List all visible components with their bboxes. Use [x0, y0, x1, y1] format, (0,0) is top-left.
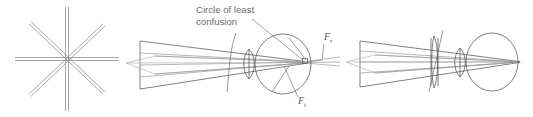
callout-leader-line: [252, 19, 303, 60]
focus-leader-lines: [284, 44, 324, 97]
ray-bundle: [140, 53, 305, 77]
crystalline-lens: [244, 49, 255, 79]
corrective-cylindrical-lens: [429, 30, 443, 92]
figure-canvas: Astigmatism: starburst target, uncorrect…: [0, 0, 533, 117]
radial-focus-label: Fr: [323, 31, 333, 44]
radial-focus-subscript: r: [330, 37, 333, 44]
astigmatic-eye-corrected: [346, 30, 520, 92]
astigmatism-figure: Astigmatism: starburst target, uncorrect…: [0, 0, 533, 117]
astigmatic-eye-uncorrected: [126, 19, 340, 97]
crystalline-lens-corrected: [455, 48, 466, 77]
ray-bundle-corrected: [360, 51, 519, 73]
tangential-focus-subscript: t: [304, 101, 307, 108]
callout-label-line1: Circle of least: [196, 4, 254, 15]
starburst-test-pattern: [15, 7, 119, 111]
callout-label-line2: confusion: [196, 16, 237, 27]
tangential-focus-label: Ft: [297, 95, 307, 108]
